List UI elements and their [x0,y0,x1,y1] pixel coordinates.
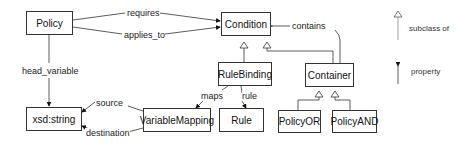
class-label: Policy [36,18,63,29]
class-label: Rule [231,115,252,126]
edge-label-source: source [96,98,123,108]
edge-label-destination: destination [86,128,130,138]
class-xsd-string: xsd:string [26,107,82,131]
class-label: PolicyAND [331,116,379,127]
class-policy: Policy [26,11,73,35]
class-rule: Rule [219,108,264,132]
edge-label-requires: requires [127,8,160,18]
class-container: Container [305,63,354,87]
edge-label-rule: rule [242,91,257,101]
edge-label-head-variable: head_variable [22,66,79,76]
legend-property-label: property [411,67,440,76]
class-policyand: PolicyAND [332,110,377,133]
edge-label-applies-to: applies_to [124,30,165,40]
class-label: RuleBinding [218,69,272,80]
class-policyor: PolicyOR [278,110,321,133]
class-label: Container [308,70,351,81]
class-condition: Condition [221,12,271,36]
legend-subclass-label: subclass of [409,24,449,33]
class-label: PolicyOR [279,116,321,127]
class-label: VariableMapping [140,115,214,126]
edge-label-maps: maps [201,91,223,101]
class-variablemapping: VariableMapping [143,108,211,132]
edge-label-contains: contains [292,21,326,31]
class-label: Condition [225,19,267,30]
class-rulebinding: RuleBinding [218,62,272,86]
class-label: xsd:string [33,114,76,125]
